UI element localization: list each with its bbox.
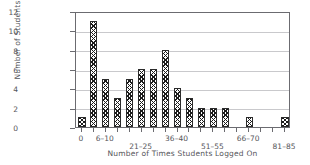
bar-series [76,13,289,127]
bar [138,69,145,127]
histogram-chart: Number of Students 024681012 06–1021–253… [0,0,310,165]
x-tick-mark [165,128,166,132]
bar [90,21,97,127]
bar [222,108,229,127]
x-tick-label: 66–70 [237,134,260,143]
y-tick-label: 0 [0,124,18,133]
x-tick-mark [200,128,201,132]
x-tick-mark [105,128,106,132]
y-tick-label: 12 [0,8,18,17]
x-tick-label: 6–10 [96,134,114,143]
bar [246,117,253,127]
bar [102,79,109,127]
x-tick-mark [272,128,273,132]
x-tick-mark [224,128,225,132]
y-tick-label: 10 [0,27,18,36]
bar [281,117,288,127]
plot-area [75,12,290,128]
y-tick-mark [70,128,75,129]
x-tick-mark [129,128,130,132]
y-tick-label: 6 [0,66,18,75]
x-tick-mark [93,128,94,132]
bar [114,98,121,127]
y-tick-label: 2 [0,105,18,114]
x-tick-mark [177,128,178,132]
x-tick-mark [260,128,261,132]
x-tick-mark [212,128,213,132]
bar [186,98,193,127]
x-tick-mark [188,128,189,132]
bar [150,69,157,127]
bar [198,108,205,127]
x-tick-mark [117,128,118,132]
x-tick-mark [284,128,285,132]
x-tick-mark [141,128,142,132]
x-tick-mark [236,128,237,132]
bar [78,117,85,127]
x-tick-label: 0 [79,134,84,143]
x-tick-mark [153,128,154,132]
bar [210,108,217,127]
y-tick-label: 4 [0,85,18,94]
bar [162,50,169,127]
bar [126,79,133,127]
y-tick-label: 8 [0,47,18,56]
x-axis-title: Number of Times Students Logged On [75,149,290,158]
x-tick-mark [81,128,82,132]
bar [174,88,181,127]
x-tick-mark [248,128,249,132]
x-tick-label: 36–40 [165,134,188,143]
